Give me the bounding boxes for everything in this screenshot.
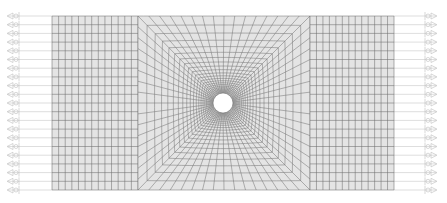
right-mesh-block bbox=[310, 16, 394, 190]
left-mesh-block bbox=[52, 16, 138, 190]
mesh-canvas bbox=[0, 0, 447, 203]
right-boundary-conditions bbox=[394, 12, 437, 194]
left-boundary-conditions bbox=[7, 12, 52, 194]
cylinder-hole bbox=[213, 93, 233, 113]
